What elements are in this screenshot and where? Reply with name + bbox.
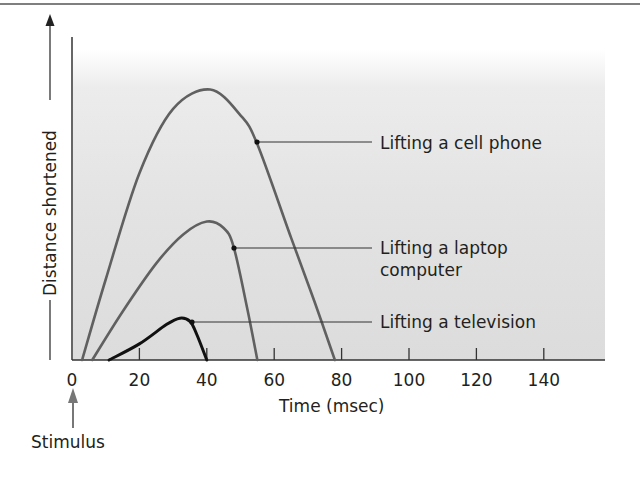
y-axis-arrow-icon xyxy=(46,14,55,26)
stimulus-annotation: Stimulus xyxy=(31,388,105,452)
x-tick-label-80: 80 xyxy=(331,370,353,390)
legend-label-laptop-line2: computer xyxy=(380,260,462,280)
legend-label-television: Lifting a television xyxy=(380,312,536,332)
x-tick-label-140: 140 xyxy=(528,370,560,390)
x-tick-label-20: 20 xyxy=(129,370,151,390)
x-axis-title: Time (msec) xyxy=(278,396,385,416)
x-tick-label-100: 100 xyxy=(393,370,425,390)
x-tick-label-60: 60 xyxy=(263,370,285,390)
y-axis-title: Distance shortened xyxy=(40,130,60,296)
x-tick-label-40: 40 xyxy=(196,370,218,390)
twitch-chart: 020406080100120140 Lifting a cell phone … xyxy=(0,0,640,480)
stimulus-arrow-icon xyxy=(68,388,78,403)
legend-label-cell-phone: Lifting a cell phone xyxy=(380,133,542,153)
stimulus-label: Stimulus xyxy=(31,432,105,452)
leader-dot-laptop xyxy=(231,245,236,250)
y-axis-label: Distance shortened xyxy=(40,14,60,360)
leader-dot-cell-phone xyxy=(254,139,259,144)
x-tick-label-0: 0 xyxy=(67,370,78,390)
x-tick-label-120: 120 xyxy=(460,370,492,390)
leader-dot-television xyxy=(189,319,194,324)
legend-label-laptop-line1: Lifting a laptop xyxy=(380,238,508,258)
